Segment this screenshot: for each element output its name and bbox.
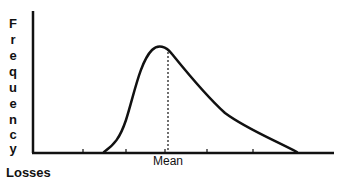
mean-label: Mean	[153, 154, 183, 168]
x-axis-label: Losses	[6, 165, 51, 180]
ylabel-letter: e	[6, 48, 20, 63]
ylabel-letter: c	[6, 127, 20, 142]
distribution-curve	[104, 47, 297, 152]
ylabel-letter: r	[6, 32, 20, 47]
ylabel-letter: n	[6, 112, 20, 127]
ylabel-letter: q	[6, 64, 20, 79]
ylabel-letter: y	[6, 141, 20, 156]
ylabel-letter: e	[6, 96, 20, 111]
ylabel-letter: u	[6, 80, 20, 95]
ylabel-letter: F	[6, 16, 20, 31]
